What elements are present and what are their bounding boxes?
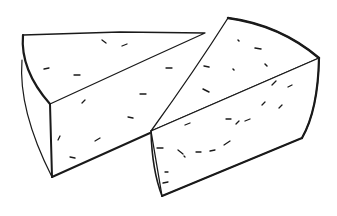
cheese-drawing (0, 0, 337, 216)
